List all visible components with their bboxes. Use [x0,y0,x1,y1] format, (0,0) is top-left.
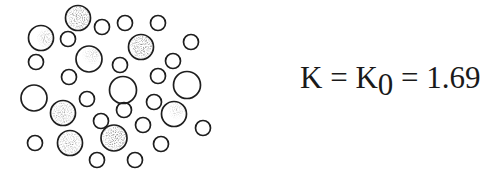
stipple-fill [77,47,101,71]
circle-outline [90,153,105,168]
k-value: 1.69 [426,60,480,95]
empty-circle [136,118,151,133]
shaded-circle [58,131,83,156]
equals-sign: = [393,60,426,95]
circle-outline [21,85,47,111]
circle-outline [61,32,76,47]
empty-circle [118,16,133,31]
stipple-fill [59,132,82,155]
stipple-fill [67,7,90,30]
shaded-circle [51,101,76,126]
circle-outline [95,20,110,35]
circle-outline [151,69,166,84]
empty-circle [196,121,211,136]
stipple-fill [30,27,53,50]
empty-circle [28,136,43,151]
empty-circle [166,54,181,69]
circle-outline [29,55,44,70]
circle-outline [196,121,211,136]
equals-sign: = [322,60,355,95]
empty-circle [94,114,109,129]
empty-circle [95,20,110,35]
shaded-circle [101,125,127,151]
empty-circle [21,85,47,111]
circle-outline [166,54,181,69]
empty-circle [128,153,143,168]
shaded-circle [66,6,91,31]
shaded-circle [76,46,102,72]
circle-outline [184,35,199,50]
circle-outline [147,95,162,110]
equation-k-equals-k0: K = K0 = 1.69 [300,62,481,93]
empty-circle [110,77,137,104]
circle-outline [28,136,43,151]
empty-circle [147,95,162,110]
k0-subscript: 0 [378,67,394,102]
stipple-fill [163,103,186,126]
circle-outline [154,137,169,152]
circle-outline [174,72,201,99]
empty-circle [174,72,201,99]
circle-outline [118,16,133,31]
shaded-circle [29,26,54,51]
circle-outline [80,92,95,107]
empty-circle [80,92,95,107]
stipple-fill [102,126,126,150]
empty-circle [117,103,132,118]
stipple-fill [130,36,153,59]
circle-outline [110,77,137,104]
k-symbol: K [300,60,322,95]
circle-outline [113,58,128,73]
circle-outline [151,16,166,31]
empty-circle [90,153,105,168]
stipple-fill [52,102,75,125]
empty-circle [151,69,166,84]
empty-circle [62,70,77,85]
empty-circle [184,35,199,50]
particle-diagram [0,0,230,181]
circle-outline [136,118,151,133]
circle-outline [94,114,109,129]
k0-symbol: K0 [355,60,393,95]
circle-outline [117,103,132,118]
empty-circle [154,137,169,152]
circle-outline [128,153,143,168]
empty-circle [29,55,44,70]
circle-outline [62,70,77,85]
shaded-circle [129,35,154,60]
empty-circle [113,58,128,73]
k0-base: K [355,60,377,95]
shaded-circle [162,102,187,127]
empty-circle [61,32,76,47]
empty-circle [151,16,166,31]
circle-group [21,6,211,168]
